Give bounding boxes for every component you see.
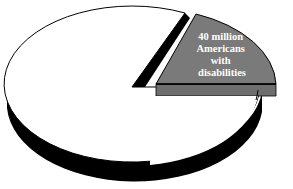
pie-chart: 40 million Americans with disabilities: [0, 0, 293, 189]
